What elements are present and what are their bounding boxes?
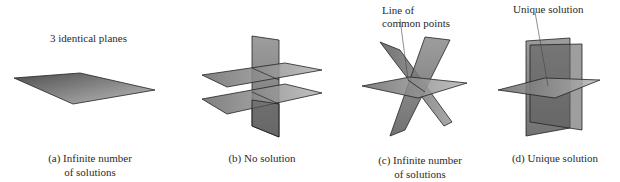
horizontal-plane bbox=[362, 77, 467, 98]
identical-plane bbox=[14, 73, 155, 104]
panel-d-planes bbox=[498, 12, 600, 136]
horizontal-plane bbox=[498, 78, 600, 98]
panel-c-caption-line2: of solutions bbox=[370, 167, 470, 181]
panel-c-caption-line1: (c) Infinite number bbox=[370, 153, 470, 167]
panel-b-caption: (b) No solution bbox=[212, 151, 312, 165]
panel-c-planes bbox=[362, 19, 467, 136]
panel-a-caption: (a) Infinite number of solutions bbox=[40, 151, 140, 179]
panel-a-caption-line1: (a) Infinite number bbox=[40, 151, 140, 165]
panel-d-caption-line1: (d) Unique solution bbox=[505, 151, 605, 165]
panel-d-caption: (d) Unique solution bbox=[505, 151, 605, 165]
panel-a-annotation: 3 identical planes bbox=[50, 32, 127, 45]
panel-c-caption: (c) Infinite number of solutions bbox=[370, 153, 470, 181]
panel-b-planes bbox=[202, 36, 322, 137]
panel-b-caption-line1: (b) No solution bbox=[212, 151, 312, 165]
panel-a-caption-line2: of solutions bbox=[40, 165, 140, 179]
panel-c-annotation-line1: Line of bbox=[382, 4, 450, 17]
panel-d-annotation: Unique solution bbox=[513, 3, 584, 16]
panel-c-annotation-line2: common points bbox=[382, 17, 450, 30]
panel-a-planes bbox=[14, 73, 155, 104]
panel-c-annotation: Line of common points bbox=[382, 4, 450, 30]
